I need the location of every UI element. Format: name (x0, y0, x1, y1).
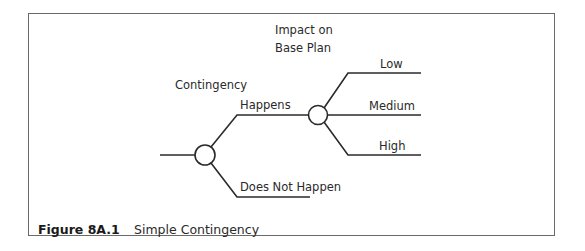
column-label-contingency: Contingency (175, 78, 247, 92)
branch-label-happens: Happens (240, 98, 291, 112)
branch-label-medium: Medium (369, 99, 415, 113)
figure-caption: Simple Contingency (134, 222, 259, 237)
figure-number: Figure 8A.1 (38, 222, 120, 237)
branch-label-low: Low (380, 57, 403, 71)
branch-happens-line (211, 115, 309, 147)
branch-label-does-not-happen: Does Not Happen (240, 180, 341, 194)
header-line-2: Base Plan (275, 41, 331, 55)
branch-label-high: High (379, 139, 405, 153)
chance-node-impact (309, 106, 328, 125)
branch-high-line (324, 122, 421, 155)
chance-node-contingency (195, 145, 215, 165)
decision-tree (0, 0, 585, 251)
header-line-1: Impact on (275, 23, 333, 37)
